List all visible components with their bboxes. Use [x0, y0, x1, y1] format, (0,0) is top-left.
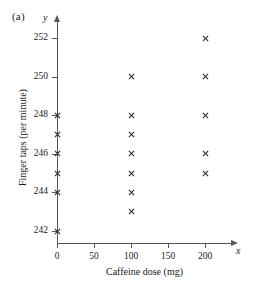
y-axis-arrowhead — [54, 15, 60, 22]
x-tick-label: 150 — [153, 251, 183, 261]
data-point — [128, 150, 135, 157]
x-axis-title: Caffeine dose (mg) — [57, 266, 232, 277]
data-point — [202, 35, 209, 42]
y-tick-label: 252 — [14, 33, 48, 43]
y-axis-variable-label: y — [43, 12, 47, 23]
plot-area: y x 242244246248250252 050100150200 Caff… — [0, 0, 254, 285]
data-point — [54, 228, 61, 235]
x-tick-mark — [168, 243, 169, 248]
y-tick-mark — [52, 77, 57, 78]
x-tick-label: 0 — [42, 251, 72, 261]
data-point — [128, 170, 135, 177]
x-tick-label: 200 — [190, 251, 220, 261]
x-axis-variable-label: x — [236, 245, 240, 256]
data-point — [128, 208, 135, 215]
x-tick-mark — [205, 243, 206, 248]
data-point — [54, 189, 61, 196]
x-tick-mark — [94, 243, 95, 248]
x-tick-mark — [57, 243, 58, 248]
data-point — [202, 170, 209, 177]
data-point — [54, 150, 61, 157]
y-tick-mark — [52, 38, 57, 39]
data-point — [128, 112, 135, 119]
data-point — [54, 131, 61, 138]
data-point — [128, 189, 135, 196]
data-point — [128, 73, 135, 80]
x-tick-label: 50 — [79, 251, 109, 261]
x-tick-mark — [131, 243, 132, 248]
data-point — [54, 170, 61, 177]
data-point — [128, 131, 135, 138]
data-point — [202, 150, 209, 157]
x-tick-label: 100 — [116, 251, 146, 261]
scatter-plot-figure: (a) y x 242244246248250252 050100150200 … — [0, 0, 254, 285]
y-axis-title: Finger taps (per minute) — [17, 48, 28, 228]
data-point — [202, 73, 209, 80]
data-point — [202, 112, 209, 119]
data-point — [54, 112, 61, 119]
